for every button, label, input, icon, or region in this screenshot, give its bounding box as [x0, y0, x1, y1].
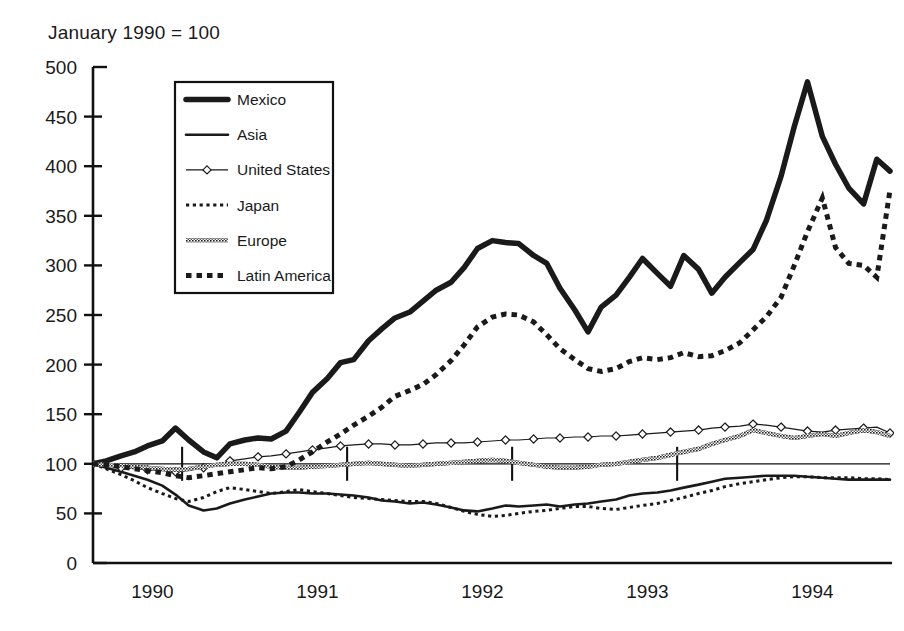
legend-label-united-states: United States — [237, 161, 330, 178]
x-tick-label: 1993 — [626, 581, 668, 602]
legend-label-europe: Europe — [237, 232, 287, 249]
series-marker-diamond — [254, 453, 262, 461]
series-marker-diamond — [473, 438, 481, 446]
series-marker-diamond — [749, 420, 757, 428]
legend-label-asia: Asia — [237, 126, 268, 143]
y-tick-label: 350 — [45, 206, 77, 227]
series-marker-diamond — [638, 430, 646, 438]
series-marker-diamond — [831, 426, 839, 434]
x-tick-label: 1991 — [296, 581, 338, 602]
series-marker-diamond — [501, 436, 509, 444]
series-marker-diamond — [584, 433, 592, 441]
y-tick-label: 300 — [45, 255, 77, 276]
series-asia — [93, 464, 890, 512]
series-marker-diamond — [447, 439, 455, 447]
series-marker-diamond — [721, 423, 729, 431]
legend-label-mexico: Mexico — [237, 91, 286, 108]
series-line — [93, 464, 890, 512]
series-marker-diamond — [391, 441, 399, 449]
y-tick-label: 100 — [45, 454, 77, 475]
series-marker-diamond — [364, 440, 372, 448]
series-marker-diamond — [336, 442, 344, 450]
x-tick-label: 1992 — [461, 581, 503, 602]
x-axis-ticks: 19901991199219931994 — [131, 581, 834, 602]
series-marker-diamond — [777, 423, 785, 431]
series-marker-diamond — [529, 435, 537, 443]
y-tick-label: 250 — [45, 305, 77, 326]
legend-box — [175, 82, 333, 293]
x-tick-label: 1990 — [131, 581, 173, 602]
series-marker-diamond — [556, 434, 564, 442]
legend-label-latin-america: Latin America — [237, 267, 331, 284]
series-marker-diamond — [419, 440, 427, 448]
y-tick-label: 400 — [45, 156, 77, 177]
series-marker-diamond — [666, 428, 674, 436]
y-axis-ticks: 050100150200250300350400450500 — [45, 57, 107, 574]
series-marker-diamond — [694, 426, 702, 434]
y-tick-label: 50 — [56, 503, 77, 524]
y-tick-label: 150 — [45, 404, 77, 425]
y-tick-label: 500 — [45, 57, 77, 78]
chart-legend: MexicoAsiaUnited StatesJapanEuropeLatin … — [175, 82, 333, 293]
line-chart-canvas: 0501001502002503003504004505001990199119… — [0, 0, 904, 631]
series-marker-diamond — [612, 432, 620, 440]
legend-label-japan: Japan — [237, 197, 279, 214]
y-tick-label: 450 — [45, 107, 77, 128]
series-marker-diamond — [282, 450, 290, 458]
x-tick-label: 1994 — [791, 581, 834, 602]
y-tick-label: 200 — [45, 355, 77, 376]
chart-figure: January 1990 = 100 050100150200250300350… — [0, 0, 904, 631]
y-tick-label: 0 — [66, 553, 77, 574]
